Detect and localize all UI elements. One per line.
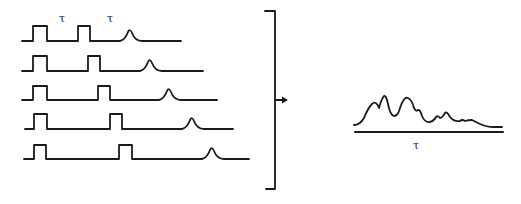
composite-axis-label-tau: τ — [413, 139, 419, 152]
delay-label-tau-1: τ — [59, 12, 65, 25]
composite-signal-trace — [354, 96, 502, 127]
pulse-sequence-diagram: τ τ τ — [0, 0, 521, 204]
pulse-trace-5 — [24, 145, 249, 159]
pulse-trace-2 — [22, 56, 203, 71]
arrow-right-icon — [275, 97, 288, 104]
delay-label-tau-2: τ — [107, 12, 113, 25]
summation-bracket — [265, 11, 275, 189]
pulse-trace-1 — [22, 26, 181, 41]
pulse-trace-4 — [25, 114, 233, 129]
pulse-trace-3 — [22, 86, 217, 100]
